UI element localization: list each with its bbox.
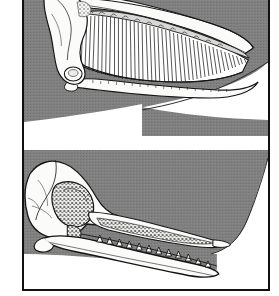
figure-root — [0, 0, 279, 296]
baleen-skull-illustration — [24, 0, 268, 136]
toothed-skull-illustration — [24, 150, 268, 291]
plate-frame — [22, 0, 270, 291]
panel-baleen-whale-skull — [24, 0, 268, 136]
panel-toothed-whale-skull — [24, 150, 268, 291]
